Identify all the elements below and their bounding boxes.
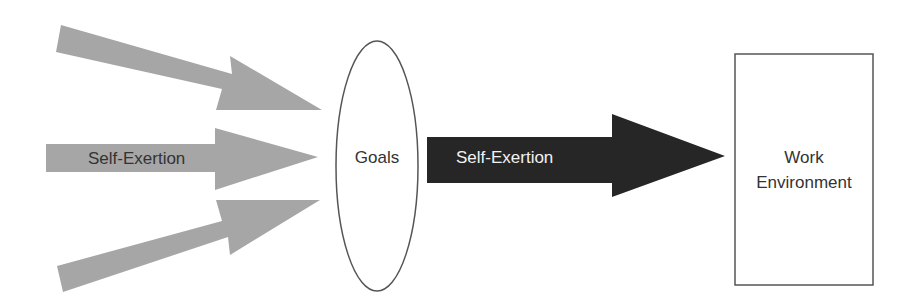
output-arrow: Self-Exertion xyxy=(427,114,725,197)
input-arrow-top xyxy=(56,25,322,110)
work-environment-node: Work Environment xyxy=(735,54,873,285)
work-environment-label-line1: Work xyxy=(784,148,824,167)
input-arrow-bottom xyxy=(57,200,320,292)
work-environment-label-line2: Environment xyxy=(756,173,852,192)
goals-node: Goals xyxy=(336,41,418,291)
output-arrow-label: Self-Exertion xyxy=(456,148,553,167)
goals-label: Goals xyxy=(355,148,399,167)
input-arrow-middle: Self-Exertion xyxy=(46,128,318,190)
self-exertion-diagram: Self-Exertion Goals Self-Exertion Work E… xyxy=(0,0,915,303)
input-arrow-middle-label: Self-Exertion xyxy=(88,149,185,168)
